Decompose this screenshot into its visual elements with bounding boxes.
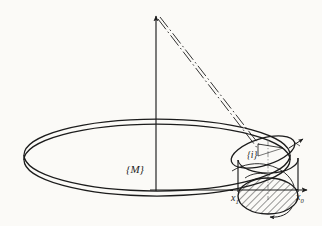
hatched-disc — [238, 178, 298, 214]
frame-label-i: {i} — [247, 150, 257, 160]
axis-label-x-inner: x1 — [231, 192, 239, 205]
centerline-gap — [159, 18, 260, 148]
axis-label-x-inner-subscript: 1 — [235, 198, 238, 205]
frame-label-M: {M} — [126, 163, 144, 175]
dash-dot-centerline — [158, 17, 261, 149]
axis-label-x-outer-glyph: x — [296, 191, 300, 202]
axis-label-x-outer-subscript: 0 — [300, 197, 303, 204]
technical-diagram: {M} {i} x1 x0 — [0, 0, 322, 226]
hatched-base-ellipse — [238, 173, 298, 217]
axis-label-x-outer: x0 — [296, 191, 304, 204]
centerline-upper — [158, 19, 258, 149]
diagram-canvas — [0, 0, 322, 226]
axis-label-x-inner-glyph: x — [231, 192, 235, 203]
